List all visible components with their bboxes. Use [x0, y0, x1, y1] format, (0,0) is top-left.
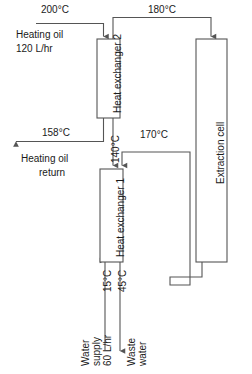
label-oil-to-cell-temperature: 180°C — [148, 4, 176, 16]
label-extraction-cell: Extraction cell — [215, 122, 226, 184]
label-waste-water-name-line2: water — [137, 342, 148, 366]
label-waste-water-temperature: 45°C — [117, 270, 128, 292]
label-water-supply-name-line1: Water — [80, 340, 91, 366]
stream-line-cell-return — [122, 152, 202, 285]
label-heat-exchanger-2: Heat exchanger 2 — [112, 34, 123, 113]
label-oil-return-name-line1: Heating oil — [21, 153, 68, 165]
flow-lines-svg — [0, 0, 252, 374]
label-heat-exchanger-1: Heat exchanger 1 — [115, 178, 126, 257]
label-oil-inlet-temperature: 200°C — [41, 4, 69, 16]
label-oil-return-temperature: 158°C — [42, 127, 70, 139]
label-heating-oil-rate: 120 L/hr — [16, 43, 53, 55]
label-oil-return-name-line2: return — [39, 167, 65, 179]
label-water-supply-rate: 60 L/hr — [102, 335, 113, 366]
label-waste-water-name-line1: Waste — [126, 338, 137, 366]
label-hx1-inlet-temperature: 140°C — [110, 135, 121, 163]
label-cell-return-temperature: 170°C — [140, 129, 168, 141]
stream-line-oil-to-cell — [113, 18, 211, 41]
label-water-supply-temperature: 15°C — [102, 270, 113, 292]
label-heating-oil-name: Heating oil — [16, 29, 63, 41]
label-water-supply-name-line2: supply — [91, 337, 102, 366]
process-flow-diagram: 200°C Heating oil 120 L/hr 180°C 158°C H… — [0, 0, 252, 374]
